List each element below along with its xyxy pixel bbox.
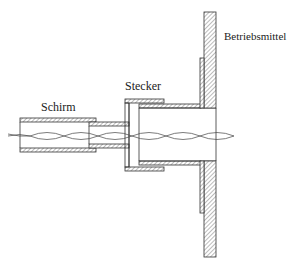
label-equipment: Betriebsmittel: [224, 31, 286, 42]
twisted-pair-wires: [8, 133, 234, 140]
equipment-panel: [200, 12, 216, 257]
connector-flange: [125, 99, 164, 171]
label-shield: Schirm: [41, 101, 76, 113]
cable-shield: [20, 118, 96, 152]
label-connector: Stecker: [125, 80, 161, 92]
